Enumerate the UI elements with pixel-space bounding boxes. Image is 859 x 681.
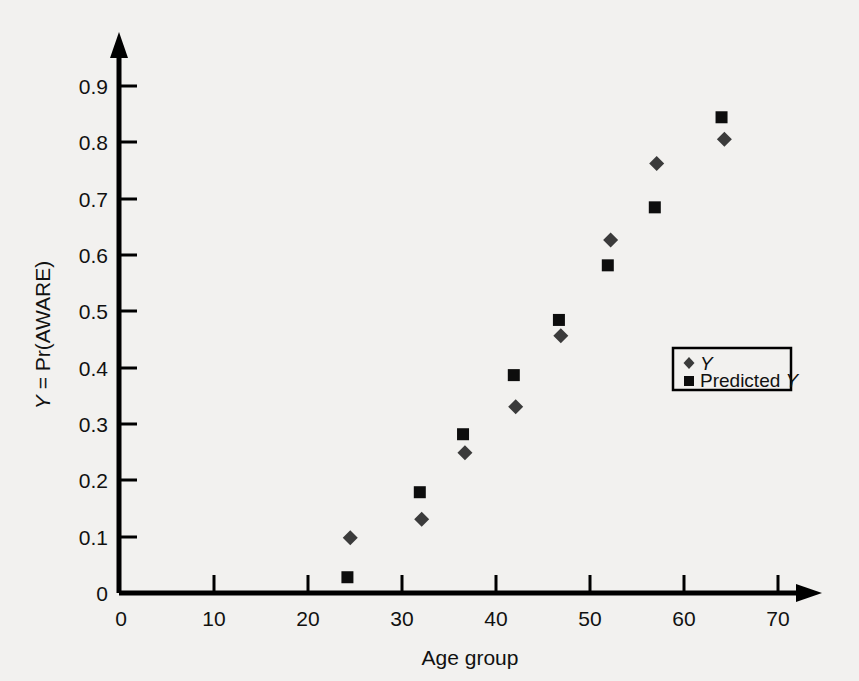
y-tick-label-0.3: 0.3 <box>79 413 108 436</box>
x-tick-label-10: 10 <box>202 607 225 630</box>
y-axis-title-rest-part: = Pr(AWARE) <box>31 261 54 395</box>
legend-square-icon <box>684 376 694 386</box>
predicted-y-point <box>414 486 426 498</box>
predicted-y-point <box>553 314 565 326</box>
chart-page: 0.9 0.8 0.7 0.6 0.5 0.4 0.3 0.2 0.1 0 Y … <box>0 0 859 681</box>
legend-label-predicted: Predicted Y <box>700 370 800 391</box>
y-tick-label-0: 0 <box>96 582 108 605</box>
y-tick-label-0.8: 0.8 <box>79 131 108 154</box>
legend-label-predicted-prefix: Predicted <box>700 370 786 391</box>
y-tick-label-0.1: 0.1 <box>79 526 108 549</box>
predicted-y-point <box>649 201 661 213</box>
chart-background <box>0 0 859 681</box>
legend[interactable]: Y Predicted Y <box>673 348 800 391</box>
predicted-y-point <box>341 571 353 583</box>
x-tick-label-70: 70 <box>766 607 789 630</box>
y-tick-label-0.9: 0.9 <box>79 75 108 98</box>
x-tick-label-30: 30 <box>390 607 413 630</box>
y-tick-label-0.6: 0.6 <box>79 244 108 267</box>
y-tick-label-0.5: 0.5 <box>79 300 108 323</box>
x-tick-label-60: 60 <box>672 607 695 630</box>
y-tick-label-0.7: 0.7 <box>79 188 108 211</box>
predicted-y-point <box>508 369 520 381</box>
x-axis-title: Age group <box>422 646 519 669</box>
predicted-y-point <box>716 111 728 123</box>
predicted-y-point <box>457 428 469 440</box>
y-tick-label-0.4: 0.4 <box>79 357 109 380</box>
x-tick-label-40: 40 <box>484 607 507 630</box>
x-tick-label-20: 20 <box>296 607 319 630</box>
y-tick-label-0.2: 0.2 <box>79 469 108 492</box>
x-tick-label-0: 0 <box>115 607 127 630</box>
y-axis-title: Y = Pr(AWARE) <box>31 261 54 409</box>
predicted-y-point <box>602 259 614 271</box>
scatter-chart: 0.9 0.8 0.7 0.6 0.5 0.4 0.3 0.2 0.1 0 Y … <box>0 0 859 681</box>
x-tick-label-50: 50 <box>578 607 601 630</box>
legend-label-predicted-italic: Y <box>786 370 800 391</box>
